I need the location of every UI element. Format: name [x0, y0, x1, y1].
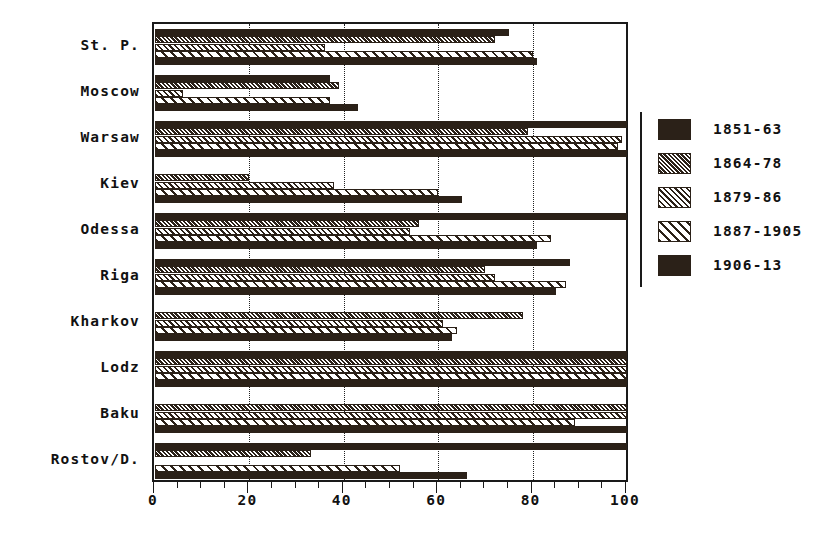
bar-group [154, 162, 626, 208]
bar-group [154, 70, 626, 116]
bar [155, 235, 551, 242]
bar [155, 228, 410, 235]
legend: 1851-631864-781879-861887-19051906-13 [640, 112, 830, 287]
plot-area [152, 22, 628, 482]
bar [155, 182, 334, 189]
bar [155, 189, 438, 196]
bar-group [154, 300, 626, 346]
bar [155, 450, 311, 457]
legend-swatch [658, 255, 691, 276]
legend-swatch [658, 153, 691, 174]
x-tick-label: 80 [521, 492, 541, 508]
bar [155, 419, 575, 426]
bar [155, 380, 627, 387]
bar [155, 312, 523, 319]
minor-tick [460, 482, 461, 488]
bar [155, 97, 330, 104]
bar [155, 327, 457, 334]
bar [155, 351, 627, 358]
bar-group [154, 116, 626, 162]
legend-item[interactable]: 1887-1905 [658, 214, 830, 248]
x-tick-label: 0 [148, 492, 158, 508]
bar-groups [154, 24, 626, 480]
bar [155, 75, 330, 82]
bar [155, 150, 627, 157]
bar [155, 90, 183, 97]
minor-tick [601, 482, 602, 488]
minor-tick [200, 482, 201, 488]
legend-label: 1887-1905 [713, 223, 802, 239]
category-label: Riga [100, 267, 140, 283]
bar-group [154, 438, 626, 484]
bar [155, 82, 339, 89]
bar [155, 274, 495, 281]
minor-tick [295, 482, 296, 488]
x-tick-label: 60 [426, 492, 446, 508]
category-label: Kiev [100, 175, 140, 191]
legend-swatch [658, 119, 691, 140]
category-label: Odessa [80, 221, 140, 237]
legend-label: 1906-13 [713, 257, 783, 273]
legend-label: 1879-86 [713, 189, 783, 205]
minor-tick [483, 482, 484, 488]
minor-tick [578, 482, 579, 488]
minor-tick [271, 482, 272, 488]
bar-group [154, 254, 626, 300]
x-tick-label: 20 [237, 492, 257, 508]
category-label: Moscow [80, 83, 140, 99]
legend-swatch [658, 187, 691, 208]
bar [155, 266, 485, 273]
bar [155, 259, 570, 266]
bar [155, 136, 622, 143]
bar [155, 128, 528, 135]
bar [155, 242, 537, 249]
category-label: Lodz [100, 359, 140, 375]
legend-item[interactable]: 1879-86 [658, 180, 830, 214]
bar-group [154, 208, 626, 254]
legend-item[interactable]: 1906-13 [658, 248, 830, 282]
chart-root: St. P.MoscowWarsawKievOdessaRigaKharkovL… [0, 0, 830, 540]
legend-item[interactable]: 1864-78 [658, 146, 830, 180]
bar [155, 334, 452, 341]
category-label: Rostov/D. [51, 451, 140, 467]
bar [155, 288, 556, 295]
bar-group [154, 24, 626, 70]
x-axis-tick-labels: 020406080100 [0, 492, 830, 522]
bar [155, 443, 627, 450]
minor-tick [389, 482, 390, 488]
bar [155, 36, 495, 43]
bar [155, 51, 533, 58]
category-label: Kharkov [70, 313, 140, 329]
bar [155, 196, 462, 203]
bar [155, 412, 627, 419]
bar [155, 472, 467, 479]
category-label: Baku [100, 405, 140, 421]
bar [155, 404, 627, 411]
bar [155, 174, 249, 181]
bar-group [154, 392, 626, 438]
category-axis-labels: St. P.MoscowWarsawKievOdessaRigaKharkovL… [0, 22, 140, 482]
x-tick-label: 40 [332, 492, 352, 508]
minor-tick [507, 482, 508, 488]
bar-group [154, 346, 626, 392]
bar [155, 143, 618, 150]
bar [155, 281, 566, 288]
minor-tick [224, 482, 225, 488]
minor-tick [365, 482, 366, 488]
category-label: St. P. [80, 37, 140, 53]
bar [155, 373, 627, 380]
legend-label: 1864-78 [713, 155, 783, 171]
bar [155, 213, 627, 220]
bar [155, 320, 443, 327]
bar [155, 366, 627, 373]
bar [155, 465, 400, 472]
bar [155, 220, 419, 227]
minor-tick [177, 482, 178, 488]
minor-tick [318, 482, 319, 488]
minor-tick [413, 482, 414, 488]
x-tick-label: 100 [610, 492, 640, 508]
legend-item[interactable]: 1851-63 [658, 112, 830, 146]
legend-swatch [658, 221, 691, 242]
bar [155, 426, 627, 433]
bar [155, 44, 325, 51]
